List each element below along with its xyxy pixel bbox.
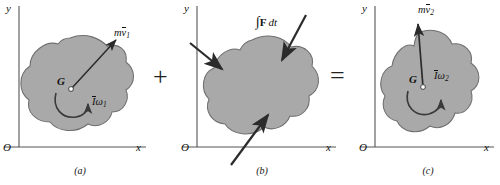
- panel-caption-c: (c): [356, 165, 500, 176]
- panel-b: y x O ∫Fdt (b): [178, 0, 346, 185]
- center-of-mass-label-a: G: [57, 75, 65, 87]
- y-axis-label-a: y: [5, 2, 11, 14]
- origin-label-c: O: [359, 141, 367, 153]
- panel-c: y x O G mv2 Iω2 (c): [356, 0, 500, 185]
- impulse-label-b: ∫Fdt: [256, 14, 277, 30]
- mass-symbol-a: m: [114, 27, 122, 38]
- angular-momentum-label-c: Iω2: [434, 70, 449, 83]
- linear-momentum-subscript-a: 1: [126, 31, 130, 40]
- impulse-momentum-figure: y x O G mv1 Iω1 (a) +: [0, 0, 500, 185]
- angular-momentum-subscript-c: 2: [445, 74, 449, 83]
- omega-symbol-a: ω: [96, 96, 103, 107]
- panel-caption-b: (b): [178, 165, 346, 176]
- y-axis-label-c: y: [361, 2, 367, 14]
- equals-operator: =: [330, 63, 345, 89]
- origin-label-a: O: [3, 141, 11, 153]
- panel-caption-a: (a): [0, 165, 160, 176]
- rigid-body-shape-c: [381, 30, 479, 132]
- force-symbol-b: F: [260, 16, 267, 28]
- center-of-mass-label-c: G: [409, 73, 417, 85]
- omega-symbol-c: ω: [438, 70, 445, 81]
- origin-label-b: O: [181, 141, 189, 153]
- angular-momentum-label-a: Iω1: [92, 96, 107, 109]
- center-of-mass-dot-c: [421, 85, 426, 90]
- differential-symbol-b: dt: [267, 16, 278, 28]
- y-axis-label-b: y: [183, 2, 189, 14]
- rigid-body-shape-b: [203, 36, 318, 134]
- mass-symbol-c: m: [418, 4, 426, 15]
- x-axis-label-c: x: [483, 141, 489, 153]
- x-axis-label-a: x: [135, 141, 141, 153]
- linear-momentum-subscript-c: 2: [430, 8, 434, 17]
- panel-a-graphic: y x O: [0, 0, 160, 185]
- plus-operator: +: [153, 64, 168, 90]
- panel-c-graphic: y x O: [356, 0, 500, 185]
- linear-momentum-label-c: mv2: [418, 4, 434, 17]
- center-of-mass-dot-a: [69, 87, 74, 92]
- x-axis-label-b: x: [325, 141, 331, 153]
- linear-momentum-label-a: mv1: [114, 27, 130, 40]
- angular-momentum-subscript-a: 1: [103, 100, 107, 109]
- impulse-arrow-upper-left: [190, 43, 222, 69]
- panel-a: y x O G mv1 Iω1 (a): [0, 0, 160, 185]
